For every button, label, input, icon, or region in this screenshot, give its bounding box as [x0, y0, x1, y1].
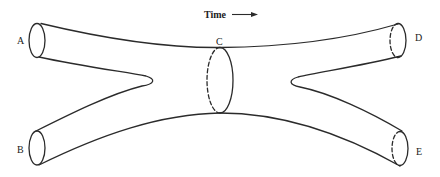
label-e: E [416, 146, 422, 157]
label-a: A [17, 35, 25, 46]
tube-bottom-edge [39, 113, 400, 166]
label-c: C [216, 36, 223, 47]
cross-section-c [207, 48, 233, 114]
tube-end-e [392, 132, 408, 166]
tube-end-d [390, 24, 406, 58]
time-arrow-icon [232, 12, 258, 17]
time-label: Time [204, 9, 227, 20]
tube-diagram: Time A B C D E [0, 0, 440, 177]
label-d: D [415, 32, 422, 43]
tube-end-b [29, 131, 45, 165]
label-b: B [17, 144, 24, 155]
left-crotch-edge [36, 57, 153, 131]
tube-end-a [29, 24, 45, 58]
right-crotch-edge [291, 56, 402, 131]
